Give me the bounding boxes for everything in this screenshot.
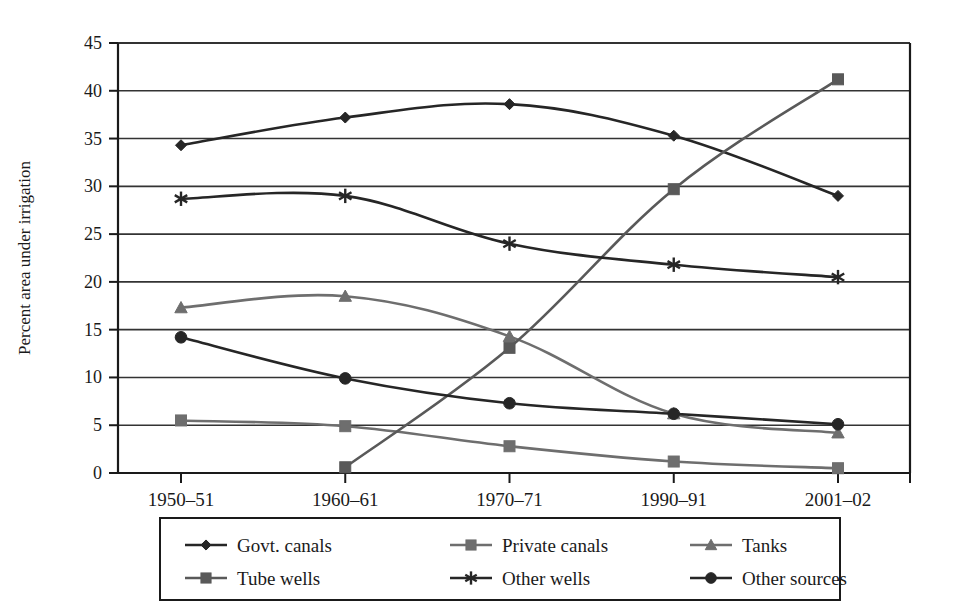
y-tick-label: 15 [84, 320, 102, 340]
legend-label: Tanks [742, 535, 787, 556]
marker-square [176, 415, 187, 426]
y-tick-label: 0 [93, 463, 102, 483]
legend-label: Other wells [502, 568, 590, 589]
marker-square [340, 421, 351, 432]
legend-label: Govt. canals [237, 535, 332, 556]
y-tick-label: 45 [84, 33, 102, 53]
marker-square [504, 441, 515, 452]
marker-square [833, 463, 844, 474]
marker-circle [339, 373, 351, 385]
marker-circle [832, 418, 844, 430]
marker-square [833, 74, 844, 85]
legend-label: Tube wells [237, 568, 320, 589]
y-tick-label: 20 [84, 272, 102, 292]
marker-circle [504, 397, 516, 409]
y-axis-title: Percent area under irrigation [15, 161, 34, 355]
y-tick-label: 10 [84, 367, 102, 387]
marker-square [504, 342, 515, 353]
x-tick-label: 2001–02 [805, 489, 872, 510]
marker-square [668, 184, 679, 195]
legend-label: Private canals [502, 535, 608, 556]
marker-square [466, 540, 476, 550]
y-tick-label: 30 [84, 176, 102, 196]
chart-container: Percent area under irrigation 0510152025… [0, 0, 960, 615]
marker-square [201, 573, 211, 583]
y-tick-label: 35 [84, 129, 102, 149]
y-tick-label: 5 [93, 415, 102, 435]
x-tick-label: 1990–91 [641, 489, 708, 510]
legend-label: Other sources [742, 568, 847, 589]
marker-circle [175, 332, 187, 344]
y-tick-label: 25 [84, 224, 102, 244]
y-axis-title-text: Percent area under irrigation [15, 161, 34, 355]
x-tick-label: 1970–71 [476, 489, 543, 510]
y-tick-label: 40 [84, 81, 102, 101]
marker-circle [706, 573, 717, 584]
x-tick-label: 1960–61 [312, 489, 379, 510]
marker-square [340, 462, 351, 473]
legend: Govt. canalsPrivate canalsTanksTube well… [160, 518, 847, 600]
marker-circle [668, 408, 680, 420]
line-chart-figure: Percent area under irrigation 0510152025… [0, 0, 960, 615]
marker-square [668, 456, 679, 467]
x-tick-label: 1950–51 [148, 489, 215, 510]
